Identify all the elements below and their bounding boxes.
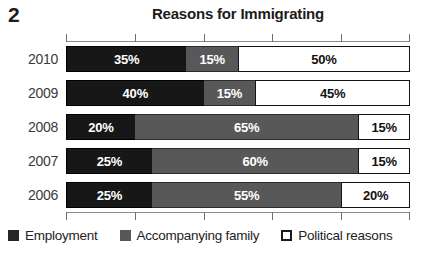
axis-tick-80 (341, 212, 342, 220)
year-label-2007: 2007 (28, 148, 58, 174)
bar-segment-accompanying-family: 60% (152, 148, 358, 174)
legend-label: Accompanying family (137, 228, 260, 243)
axis-tick-100 (409, 212, 410, 220)
bar-row: 25%55%20% (66, 182, 410, 208)
bar-segment-employment: 35% (66, 46, 186, 72)
stacked-bar-rows: 35%15%50%40%15%45%20%65%15%25%60%15%25%5… (66, 42, 410, 212)
bar-segment-employment: 25% (66, 182, 152, 208)
bar-segment-accompanying-family: 15% (186, 46, 238, 72)
bar-segment-accompanying-family: 65% (135, 114, 359, 140)
axis-tick-0 (66, 212, 67, 220)
year-label-2010: 2010 (28, 46, 58, 72)
axis-tick-60 (272, 212, 273, 220)
axis-tick-60 (272, 34, 273, 42)
bar-segment-political-reasons: 20% (341, 182, 410, 208)
axis-tick-0 (66, 34, 67, 42)
legend-label: Employment (25, 228, 98, 243)
bar-segment-accompanying-family: 55% (152, 182, 341, 208)
bar-segment-political-reasons: 45% (255, 80, 410, 106)
chart-plot-area: 35%15%50%40%15%45%20%65%15%25%60%15%25%5… (66, 42, 410, 212)
chart-title: Reasons for Immigrating (66, 6, 410, 23)
figure-number: 2 (8, 4, 19, 25)
bar-segment-employment: 40% (66, 80, 204, 106)
bar-segment-political-reasons: 15% (358, 114, 410, 140)
legend-swatch-employment-icon (8, 230, 19, 241)
bar-segment-accompanying-family: 15% (204, 80, 256, 106)
bar-row: 20%65%15% (66, 114, 410, 140)
year-axis-labels: 20102009200820072006 (0, 42, 62, 212)
chart-legend: EmploymentAccompanying familyPolitical r… (8, 228, 417, 243)
year-label-2008: 2008 (28, 114, 58, 140)
axis-tick-20 (135, 212, 136, 220)
bar-row: 35%15%50% (66, 46, 410, 72)
bar-segment-political-reasons: 50% (238, 46, 410, 72)
axis-tick-20 (135, 34, 136, 42)
bar-row: 40%15%45% (66, 80, 410, 106)
axis-tick-100 (409, 34, 410, 42)
year-label-2009: 2009 (28, 80, 58, 106)
bar-segment-political-reasons: 15% (358, 148, 410, 174)
axis-tick-40 (204, 212, 205, 220)
legend-swatch-family-icon (120, 230, 131, 241)
bar-row: 25%60%15% (66, 148, 410, 174)
legend-swatch-political-icon (281, 230, 292, 241)
bar-segment-employment: 25% (66, 148, 152, 174)
axis-tick-40 (204, 34, 205, 42)
bar-segment-employment: 20% (66, 114, 135, 140)
legend-item-family[interactable]: Accompanying family (120, 228, 260, 243)
axis-tick-80 (341, 34, 342, 42)
year-label-2006: 2006 (28, 182, 58, 208)
legend-item-employment[interactable]: Employment (8, 228, 98, 243)
legend-item-political[interactable]: Political reasons (281, 228, 392, 243)
legend-label: Political reasons (298, 228, 392, 243)
